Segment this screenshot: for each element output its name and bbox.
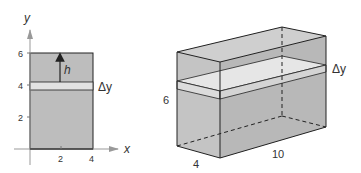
depth-dimension-label: 4 — [193, 158, 199, 170]
tank-diagram: y x 6 4 2 2 4 h Δy Δy 6 4 10 — [0, 0, 361, 173]
y-tick-6: 6 — [18, 49, 23, 59]
x-axis-label: x — [123, 142, 131, 156]
height-label: h — [64, 63, 71, 77]
x-tick-2: 2 — [58, 154, 63, 164]
tank-3d-figure: Δy 6 4 10 — [163, 27, 346, 170]
cross-section-figure: y x 6 4 2 2 4 h Δy — [14, 11, 131, 165]
y-tick-4: 4 — [18, 81, 23, 91]
strip-thickness-label-3d: Δy — [332, 62, 346, 76]
strip-thickness-label: Δy — [98, 80, 112, 94]
y-axis-label: y — [23, 11, 31, 25]
tank-cross-section — [30, 53, 93, 149]
x-tick-4: 4 — [89, 154, 94, 164]
strip-slice — [30, 82, 93, 90]
height-dimension-label: 6 — [163, 94, 169, 106]
width-dimension-label: 10 — [272, 148, 284, 160]
y-tick-2: 2 — [18, 113, 23, 123]
